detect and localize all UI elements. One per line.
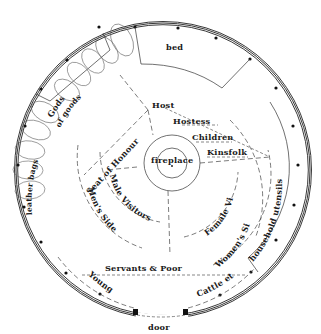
outer-wall: [15, 22, 312, 319]
host-label: Host: [152, 100, 174, 110]
household-utensils-label: household utensils: [247, 178, 284, 263]
hostess-label: Hostess: [173, 116, 211, 126]
fireplace: fireplace: [144, 135, 200, 191]
male-visitors-label: Male Visitors: [108, 173, 153, 223]
kinsfolk-label: Kinsfolk: [207, 147, 247, 157]
fireplace-label: fireplace: [151, 155, 193, 165]
bed-area: bed: [135, 27, 250, 88]
bed-label: bed: [166, 42, 183, 52]
children-label: Children: [192, 132, 234, 142]
cattle-label: Cattle etc.: [0, 0, 235, 299]
door-gap: [133, 309, 188, 317]
dwelling-diagram: bed Gods of goods leather bags: [0, 0, 321, 334]
servants-poor-label: Servants & Poor: [105, 263, 183, 273]
leather-bags-label: leather bags: [24, 158, 40, 215]
door-label: door: [148, 322, 170, 332]
